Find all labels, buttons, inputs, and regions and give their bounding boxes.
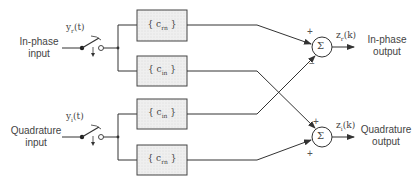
filter-2-label: { cin } xyxy=(137,64,187,76)
filter-4-label: { crn } xyxy=(137,153,187,165)
sigma-icon: Σ xyxy=(317,40,324,51)
plus-sign: + xyxy=(307,148,313,159)
inphase-output-label: In-phase output xyxy=(360,34,414,58)
sigma-icon: Σ xyxy=(317,130,324,141)
quadrature-output-signal-label: zi(k) xyxy=(336,120,355,132)
plus-sign: + xyxy=(307,26,313,37)
quadrature-output-label: Quadrature output xyxy=(356,124,416,148)
plus-sign: + xyxy=(313,116,319,127)
inphase-output-signal-label: zr(k) xyxy=(336,30,356,42)
switch-arm-icon xyxy=(82,38,99,48)
inphase-input-label: In-phase input xyxy=(14,36,64,60)
quadrature-input-label: Quadrature input xyxy=(6,125,66,149)
diagram-canvas xyxy=(0,0,418,188)
filter-3-label: { cin } xyxy=(137,107,187,119)
quadrature-signal-label: yi(t) xyxy=(66,111,84,123)
switch-contact-icon xyxy=(99,46,104,51)
minus-sign: − xyxy=(309,58,315,69)
inphase-signal-label: yr(t) xyxy=(66,22,85,34)
filter-output-lines xyxy=(187,25,315,160)
filter-1-label: { crn } xyxy=(137,19,187,31)
